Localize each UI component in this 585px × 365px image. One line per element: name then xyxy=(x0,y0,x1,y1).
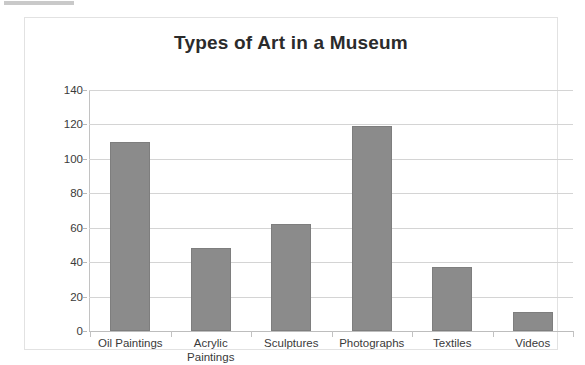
x-axis-tick-label-line: Videos xyxy=(493,336,574,350)
y-axis-tick-mark xyxy=(83,90,87,91)
x-axis-tick-label-line: Oil Paintings xyxy=(90,336,171,350)
bar[interactable] xyxy=(352,126,392,331)
y-axis-tick-mark xyxy=(83,297,87,298)
bar-slot xyxy=(412,90,493,331)
y-axis-tick-mark xyxy=(83,124,87,125)
bar-slot xyxy=(90,90,171,331)
bar-slot xyxy=(493,90,574,331)
y-axis-tick-mark xyxy=(83,193,87,194)
x-axis-tick-label: AcrylicPaintings xyxy=(171,336,252,364)
x-axis-tick-labels: Oil PaintingsAcrylicPaintingsSculpturesP… xyxy=(90,336,573,365)
chart-container: Types of Art in a Museum 020406080100120… xyxy=(24,17,558,350)
bar[interactable] xyxy=(432,267,472,331)
x-axis-tick-label: Videos xyxy=(493,336,574,350)
bar[interactable] xyxy=(191,248,231,331)
x-axis-tick-label-line: Sculptures xyxy=(251,336,332,350)
y-axis-tick-mark xyxy=(83,331,87,332)
x-axis-tick-label: Oil Paintings xyxy=(90,336,171,350)
y-axis-tick-label: 100 xyxy=(47,153,83,165)
x-axis-tick-label: Textiles xyxy=(412,336,493,350)
y-axis-tick-label: 20 xyxy=(47,291,83,303)
x-axis-tick-label: Sculptures xyxy=(251,336,332,350)
x-axis-tick-label: Photographs xyxy=(332,336,413,350)
x-axis-tick-label-line: Acrylic xyxy=(171,336,252,350)
y-axis-tick-label: 0 xyxy=(47,325,83,337)
bar[interactable] xyxy=(513,312,553,331)
y-axis-tick-mark xyxy=(83,228,87,229)
y-axis-tick-mark xyxy=(83,262,87,263)
x-axis-tick-mark xyxy=(573,331,574,337)
y-axis-tick-label: 140 xyxy=(47,84,83,96)
bar[interactable] xyxy=(110,142,150,331)
chart-title: Types of Art in a Museum xyxy=(25,32,557,54)
bars-layer xyxy=(90,90,573,331)
bar-slot xyxy=(251,90,332,331)
y-axis-tick-label: 120 xyxy=(47,118,83,130)
bar[interactable] xyxy=(271,224,311,331)
bar-slot xyxy=(332,90,413,331)
y-axis-tick-label: 40 xyxy=(47,256,83,268)
x-axis-tick-label-line: Textiles xyxy=(412,336,493,350)
bar-slot xyxy=(171,90,252,331)
y-axis-tick-label: 60 xyxy=(47,222,83,234)
x-axis-tick-label-line: Paintings xyxy=(171,350,252,364)
x-axis-tick-label-line: Photographs xyxy=(332,336,413,350)
scan-artifact xyxy=(4,1,74,5)
y-axis-tick-mark xyxy=(83,159,87,160)
y-axis-tick-labels: 020406080100120140 xyxy=(43,90,83,331)
y-axis-tick-label: 80 xyxy=(47,187,83,199)
